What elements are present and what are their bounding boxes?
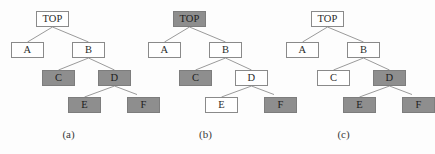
edge-top-a — [28, 27, 53, 42]
edge-top-a — [303, 27, 328, 42]
tree-c-node-c: C — [317, 70, 350, 86]
tree-c-node-e: E — [343, 97, 376, 113]
edge-d-f — [252, 86, 275, 97]
tree-b-node-c: C — [179, 70, 212, 86]
tree-c-node-f: F — [402, 97, 435, 113]
tree-b-node-d-label: D — [248, 72, 256, 83]
edge-d-e — [85, 86, 115, 97]
tree-b-node-top-label: TOP — [179, 13, 199, 24]
tree-b-node-a: A — [148, 42, 181, 58]
tree-c-node-e-label: E — [356, 99, 363, 110]
edge-top-b — [53, 27, 89, 42]
tree-a-node-d-label: D — [111, 72, 119, 83]
tree-a-node-b-label: B — [85, 44, 92, 55]
tree-diagram-c: TOP A B C D E F (c) — [275, 0, 412, 154]
tree-a-node-c: C — [42, 70, 75, 86]
tree-b-node-a-label: A — [161, 44, 169, 55]
tree-c-node-d: D — [373, 70, 406, 86]
edge-b-c — [59, 58, 89, 70]
tree-b-caption: (b) — [137, 128, 274, 140]
tree-b-node-c-label: C — [192, 72, 199, 83]
edge-d-e — [222, 86, 252, 97]
tree-diagram-b: TOP A B C D E F (b) — [137, 0, 274, 154]
edge-d-e — [360, 86, 390, 97]
tree-a-node-b: B — [72, 42, 105, 58]
tree-a-caption: (a) — [0, 128, 137, 140]
tree-c-node-a: A — [286, 42, 319, 58]
tree-a-node-a: A — [11, 42, 44, 58]
tree-diagram-a: TOP A B C D E F (a) — [0, 0, 137, 154]
tree-c-node-b: B — [347, 42, 380, 58]
tree-c-node-c-label: C — [330, 72, 337, 83]
edge-top-a — [165, 27, 190, 42]
tree-c-node-top: TOP — [311, 11, 344, 27]
tree-b-node-d: D — [235, 70, 268, 86]
tree-a-node-a-label: A — [24, 44, 32, 55]
tree-c-node-b-label: B — [360, 44, 367, 55]
tree-b-node-e-label: E — [218, 99, 225, 110]
edge-b-c — [334, 58, 364, 70]
tree-c-caption: (c) — [275, 128, 412, 140]
tree-c-node-top-label: TOP — [317, 13, 337, 24]
tree-a-node-e-label: E — [81, 99, 88, 110]
edge-top-b — [328, 27, 364, 42]
tree-b-node-e: E — [205, 97, 238, 113]
tree-a-node-top: TOP — [36, 11, 69, 27]
edge-top-b — [190, 27, 226, 42]
edge-d-f — [115, 86, 138, 97]
edge-b-d — [226, 58, 252, 70]
tree-c-node-a-label: A — [299, 44, 307, 55]
tree-b-node-b: B — [209, 42, 242, 58]
tree-c-node-d-label: D — [386, 72, 394, 83]
edge-b-d — [89, 58, 115, 70]
tree-b-node-b-label: B — [222, 44, 229, 55]
tree-a-node-e: E — [68, 97, 101, 113]
tree-a-node-c-label: C — [55, 72, 62, 83]
edge-d-f — [390, 86, 413, 97]
edge-b-c — [196, 58, 226, 70]
edge-b-d — [364, 58, 390, 70]
tree-c-node-f-label: F — [415, 99, 421, 110]
tree-a-node-d: D — [98, 70, 131, 86]
tree-a-node-top-label: TOP — [42, 13, 62, 24]
tree-b-node-top: TOP — [173, 11, 206, 27]
